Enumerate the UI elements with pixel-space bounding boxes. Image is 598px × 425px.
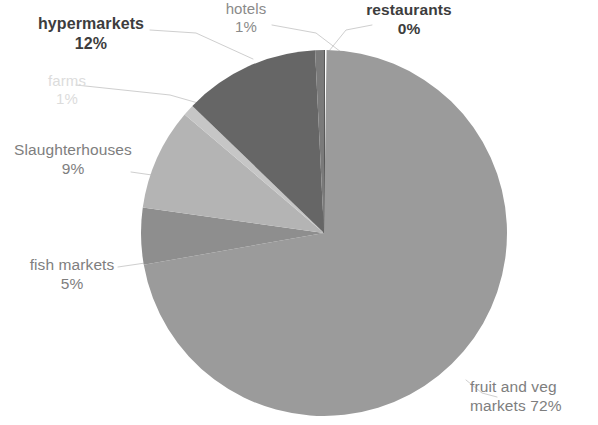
- slice-label-hotels-name: hotels: [194, 0, 298, 18]
- slice-label-restaurants-name: restaurants: [339, 1, 479, 20]
- slice-label-hotels-percent: 1%: [194, 18, 298, 36]
- slice-label-fruit-and-veg-markets: fruit and veg markets 72%: [470, 378, 598, 416]
- slice-label-farms-name: farms: [8, 72, 126, 90]
- slice-label-restaurants: restaurants 0%: [339, 1, 479, 39]
- slice-label-fish-markets-name: fish markets: [4, 256, 140, 275]
- slice-label-fish-markets: fish markets 5%: [4, 256, 140, 294]
- slice-label-slaughterhouses-percent: 9%: [0, 160, 148, 179]
- slice-label-farms-percent: 1%: [8, 90, 126, 108]
- pie-wedges: [141, 50, 507, 416]
- slice-label-fruit-and-veg-markets-percent: markets 72%: [470, 397, 562, 414]
- slice-label-hypermarkets-percent: 12%: [18, 34, 164, 54]
- slice-label-slaughterhouses-name: Slaughterhouses: [0, 141, 148, 160]
- slice-label-fish-markets-percent: 5%: [4, 275, 140, 294]
- slice-label-fruit-and-veg-markets-name: fruit and veg: [470, 378, 557, 395]
- slice-label-farms: farms 1%: [8, 72, 126, 109]
- slice-label-slaughterhouses: Slaughterhouses 9%: [0, 141, 148, 179]
- slice-label-hypermarkets: hypermarkets 12%: [18, 14, 164, 53]
- pie-chart-canvas: [0, 0, 598, 425]
- slice-label-restaurants-percent: 0%: [339, 20, 479, 39]
- slice-label-hotels: hotels 1%: [194, 0, 298, 37]
- pie-chart: hypermarkets 12% hotels 1% restaurants 0…: [0, 0, 598, 425]
- slice-label-hypermarkets-name: hypermarkets: [18, 14, 164, 34]
